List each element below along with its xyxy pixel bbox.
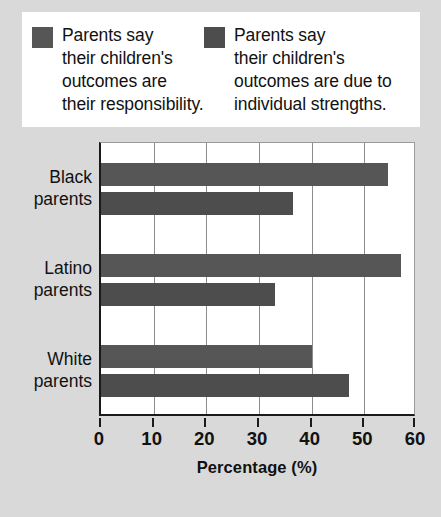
- x-tick-label-30: 30: [247, 428, 268, 450]
- x-tick-mark-0: [99, 418, 101, 427]
- x-axis-tick-labels: 0102030405060: [99, 428, 415, 454]
- bar-black-parents-series-2: [101, 192, 293, 215]
- legend-label-responsibility: Parents say their children's outcomes ar…: [62, 24, 204, 116]
- legend-swatch-individual-strengths: [204, 27, 225, 48]
- bar-black-parents-series-1: [101, 163, 388, 186]
- plot-area: [99, 142, 415, 416]
- x-tick-mark-30: [257, 418, 259, 427]
- x-tick-mark-20: [204, 418, 206, 427]
- x-axis-tick-marks: [99, 418, 415, 427]
- bars-layer: [101, 143, 414, 414]
- x-tick-label-50: 50: [352, 428, 373, 450]
- x-tick-mark-50: [362, 418, 364, 427]
- y-axis-category-labels: Black parentsLatino parentsWhite parents: [0, 142, 92, 416]
- legend-entry-responsibility: Parents say their children's outcomes ar…: [32, 24, 204, 127]
- x-tick-label-20: 20: [194, 428, 215, 450]
- legend-entry-individual-strengths: Parents say their children's outcomes ar…: [204, 24, 414, 127]
- x-tick-label-10: 10: [141, 428, 162, 450]
- y-axis-label-latino: Latino parents: [0, 257, 92, 301]
- y-axis-label-white: White parents: [0, 348, 92, 392]
- x-tick-label-60: 60: [405, 428, 426, 450]
- x-tick-label-40: 40: [299, 428, 320, 450]
- x-tick-mark-60: [413, 418, 415, 427]
- x-tick-mark-40: [310, 418, 312, 427]
- legend-swatch-responsibility: [32, 27, 53, 48]
- bar-white-parents-series-1: [101, 345, 312, 368]
- bar-latino-parents-series-1: [101, 254, 401, 277]
- x-tick-mark-10: [152, 418, 154, 427]
- bar-latino-parents-series-2: [101, 283, 275, 306]
- bar-white-parents-series-2: [101, 374, 349, 397]
- legend-label-individual-strengths: Parents say their children's outcomes ar…: [234, 24, 392, 116]
- x-axis-title: Percentage (%): [99, 458, 415, 477]
- legend-panel: Parents say their children's outcomes ar…: [22, 12, 420, 127]
- y-axis-label-black: Black parents: [0, 166, 92, 210]
- x-tick-label-0: 0: [94, 428, 104, 450]
